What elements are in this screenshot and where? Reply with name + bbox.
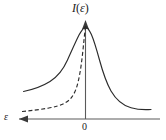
y-axis-close-paren: ) bbox=[85, 1, 89, 15]
plot-canvas bbox=[0, 0, 166, 140]
solid-intensity-curve bbox=[24, 26, 152, 109]
x-axis-arrowhead-icon bbox=[19, 115, 28, 122]
origin-label: 0 bbox=[82, 122, 87, 132]
x-axis-label: ε bbox=[4, 112, 8, 122]
dashed-intensity-curve bbox=[22, 26, 86, 111]
y-axis-label: I(ε) bbox=[72, 2, 89, 14]
figure-container: I(ε) ε 0 bbox=[0, 0, 166, 140]
